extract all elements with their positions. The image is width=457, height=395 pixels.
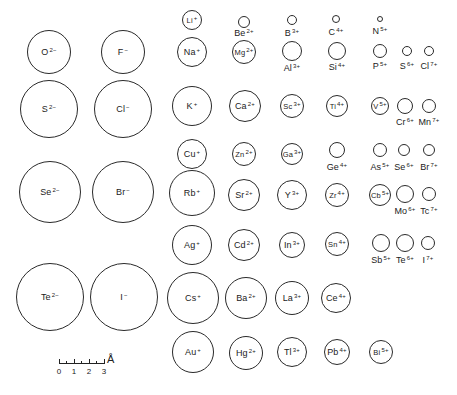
scale-tick-minor — [96, 361, 97, 363]
ion-label: Rb+ — [184, 188, 201, 198]
ion-label: Br− — [116, 187, 130, 197]
ion-circle-si-4plus — [328, 42, 346, 60]
ion-label: Hg2+ — [236, 348, 256, 358]
scale-label-1: 1 — [72, 367, 76, 376]
ion-label: K+ — [187, 101, 198, 111]
ion-label: Al3+ — [284, 63, 301, 73]
scale-tick — [59, 359, 60, 363]
ion-label: Be2+ — [234, 28, 254, 38]
ion-label: Mn7+ — [418, 117, 439, 127]
scale-tick-minor — [81, 361, 82, 363]
ion-label: In3+ — [284, 240, 300, 250]
ion-label: Te6+ — [396, 255, 414, 265]
ion-label: Se2− — [40, 187, 60, 197]
ion-circle-b-3plus — [287, 15, 297, 25]
ion-label: Cu+ — [184, 149, 201, 159]
ion-label: I− — [120, 292, 127, 302]
ion-circle-n-5plus — [377, 16, 383, 22]
ion-label: Cb5+ — [371, 190, 389, 200]
ion-label: V5+ — [373, 101, 386, 111]
ion-label: Se6+ — [394, 162, 414, 172]
scale-label-3: 3 — [102, 367, 106, 376]
ion-label: N5+ — [373, 26, 388, 36]
ion-circle-i-7plus — [421, 236, 435, 250]
ion-circle-be-2plus — [238, 16, 250, 28]
ion-label: S2− — [42, 104, 56, 114]
ion-label: Ga3+ — [283, 149, 302, 159]
ion-label: O2− — [41, 47, 56, 57]
ion-label: Te2− — [41, 292, 59, 302]
ion-circle-cl-7plus — [424, 46, 434, 56]
ion-circle-c-4plus — [332, 15, 340, 23]
ion-circle-cr-6plus — [397, 98, 413, 114]
scale-bar: 0 1 2 3 Å — [59, 355, 119, 385]
ion-label: Cr6+ — [396, 117, 414, 127]
ion-circle-ge-4plus — [329, 142, 345, 158]
ion-label: Zr4+ — [329, 190, 345, 200]
ion-label: C4+ — [329, 27, 344, 37]
scale-tick — [104, 359, 105, 363]
scale-label-0: 0 — [57, 367, 61, 376]
ion-label: Sc3+ — [283, 101, 300, 111]
ion-label: Sn4+ — [328, 239, 346, 249]
ion-label: Ce4+ — [326, 293, 346, 303]
ion-label: Ti4+ — [330, 101, 345, 111]
ion-label: Si4+ — [329, 62, 346, 72]
ion-label: B3+ — [285, 28, 299, 38]
ion-label: Bi5+ — [373, 347, 388, 357]
ion-circle-se-6plus — [398, 144, 410, 156]
ion-circle-sb-5plus — [372, 234, 390, 252]
scale-tick-minor — [66, 361, 67, 363]
ion-label: I7+ — [423, 255, 434, 265]
ion-label: Ge4+ — [327, 162, 348, 172]
ion-circle-p-5plus — [373, 44, 387, 58]
ion-label: Ba2+ — [236, 293, 256, 303]
ion-label: Na+ — [184, 47, 201, 57]
ion-label: Y3+ — [285, 190, 299, 200]
scale-line — [59, 363, 105, 364]
ion-circle-te-6plus — [396, 234, 414, 252]
ion-label: Li+ — [187, 15, 198, 25]
scale-tick — [74, 359, 75, 363]
scale-tick — [89, 359, 90, 363]
ion-circle-br-7plus — [423, 144, 435, 156]
ion-circle-as-5plus — [373, 143, 387, 157]
ion-label: Mo6+ — [394, 206, 415, 216]
ion-label: Zn2+ — [235, 149, 252, 159]
ion-label: Cl7+ — [420, 61, 437, 71]
ion-label: Au+ — [185, 347, 201, 357]
ion-label: La3+ — [283, 293, 302, 303]
ion-label: Ag+ — [184, 240, 200, 250]
ion-circle-mn-7plus — [422, 99, 436, 113]
ion-circle-mo-6plus — [396, 185, 414, 203]
ionic-radii-diagram: O2−F−S2−Cl−Se2−Br−Te2−I−Li+Na+K+Cu+Rb+Ag… — [0, 0, 457, 395]
ion-label: Cs+ — [185, 293, 201, 303]
ion-label: P5+ — [373, 61, 387, 71]
ion-label: S6+ — [400, 61, 414, 71]
ion-circle-s-6plus — [402, 46, 412, 56]
ion-label: F− — [118, 47, 128, 57]
ion-label: Tc7+ — [420, 206, 438, 216]
ion-label: Pb4+ — [327, 347, 347, 357]
scale-label-2: 2 — [87, 367, 91, 376]
ion-label: Cd2+ — [234, 240, 254, 250]
ion-label: Ca2+ — [235, 101, 255, 111]
ion-label: Sb5+ — [371, 255, 391, 265]
ion-label: Mg2+ — [234, 47, 253, 57]
ion-label: As5+ — [370, 162, 389, 172]
ion-label: Br7+ — [420, 162, 438, 172]
ion-circle-tc-7plus — [422, 187, 436, 201]
scale-unit-angstrom: Å — [107, 353, 114, 365]
ion-label: Cl− — [116, 104, 130, 114]
ion-label: Tl3+ — [284, 347, 300, 357]
ion-circle-al-3plus — [282, 41, 302, 61]
ion-label: Sr2+ — [235, 190, 253, 200]
